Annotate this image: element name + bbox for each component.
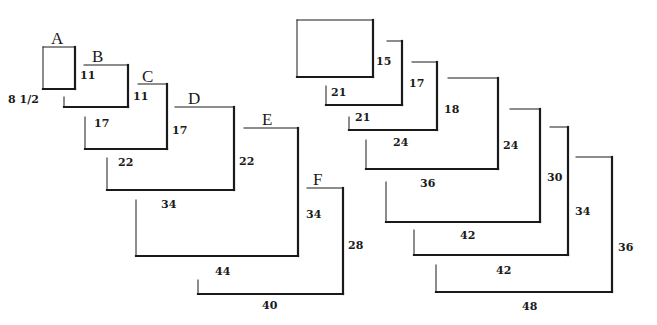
sheet-r2-width-label: 21 [355,112,370,123]
sheet-a-height-label: 11 [80,70,95,81]
sheet-f-width-label: 40 [262,300,277,311]
sheet-r2-height-label: 17 [409,78,424,89]
diagram-labels: A8 1/211B1711C2217D3422E4434F40282115211… [0,0,657,325]
sheet-d-height-label: 22 [239,156,254,167]
sheet-r6-height-label: 34 [575,206,590,217]
sheet-r6-width-label: 42 [496,265,511,276]
sheet-r7-width-label: 48 [522,301,537,312]
sheet-e-height-label: 34 [306,209,321,220]
sheet-r4-width-label: 36 [420,178,435,189]
sheet-r1-height-label: 15 [376,56,391,67]
sheet-d-width-label: 34 [161,199,176,210]
sheet-b-height-label: 11 [133,91,148,102]
sheet-a-width-label: 8 1/2 [8,94,39,105]
sheet-r4-height-label: 24 [503,140,518,151]
sheet-c-height-label: 17 [172,125,187,136]
sheet-c-letter: C [142,68,153,85]
sheet-f-letter: F [313,171,322,188]
sheet-e-width-label: 44 [215,266,230,277]
sheet-f-height-label: 28 [348,240,363,251]
sheet-r7-height-label: 36 [618,242,633,253]
sheet-r1-width-label: 21 [331,87,346,98]
sheet-e-letter: E [262,111,272,128]
sheet-b-letter: B [92,48,103,65]
sheet-r3-width-label: 24 [393,137,408,148]
sheet-d-letter: D [188,90,200,107]
sheet-r5-height-label: 30 [547,172,562,183]
sheet-r3-height-label: 18 [444,104,459,115]
sheet-c-width-label: 22 [118,157,133,168]
sheet-b-width-label: 17 [94,118,109,129]
sheet-r5-width-label: 42 [460,230,475,241]
sheet-a-letter: A [51,30,63,47]
